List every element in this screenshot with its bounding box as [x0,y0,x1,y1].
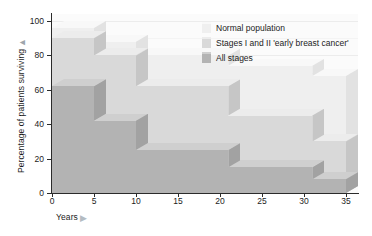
series-step-face [52,86,94,193]
series-step-face [136,150,228,193]
x-axis-tick-mark [346,193,347,197]
y-axis-arrow-icon: ▲ [17,38,27,47]
x-axis-tick-mark [262,193,263,197]
legend-swatch-icon [202,37,211,48]
x-axis-tick-label: 35 [341,196,350,206]
x-axis-label: Years▶ [56,212,87,223]
x-axis-tick-mark [52,193,53,197]
x-axis-tick-mark [304,193,305,197]
y-axis-label: Percentage of patients surviving▲ [16,11,27,201]
y-axis-tick-label: 60 [18,85,44,95]
x-axis-tick-label: 15 [173,196,182,206]
legend-item-label: Normal population [216,23,285,33]
legend-item: All stages [202,50,349,65]
x-axis-tick-label: 0 [50,196,55,206]
legend-item-label: Stages I and II 'early breast cancer' [216,38,349,48]
series-riser-side [94,79,106,120]
y-axis-tick-mark [47,90,51,91]
x-axis-tick-label: 30 [299,196,308,206]
y-axis-tick-label: 40 [18,119,44,129]
x-axis-tick-mark [220,193,221,197]
survival-chart: Percentage of patients surviving▲ Years▶… [0,0,372,236]
legend-item-label: All stages [216,53,253,63]
legend-swatch-icon [202,52,211,63]
x-axis-label-text: Years [56,212,78,222]
y-axis-line [51,13,52,194]
y-axis-tick-label: 0 [18,188,44,198]
legend-swatch-icon [202,22,211,33]
series-step-face [312,179,346,193]
x-axis-tick-mark [136,193,137,197]
x-axis-arrow-icon: ▶ [80,213,87,223]
y-axis-tick-label: 100 [18,16,44,26]
legend-item: Normal population [202,20,349,35]
y-axis-tick-mark [47,21,51,22]
series-step-face [94,121,136,193]
x-axis-tick-label: 25 [257,196,266,206]
x-axis-tick-mark [94,193,95,197]
y-axis-tick-label: 20 [18,154,44,164]
series-step-top [136,143,241,150]
x-axis-tick-label: 20 [215,196,224,206]
y-axis-tick-mark [47,55,51,56]
y-axis-tick-mark [47,159,51,160]
y-axis-tick-label: 80 [18,50,44,60]
y-axis-tick-mark [47,124,51,125]
y-axis-tick-mark [47,193,51,194]
legend: Normal populationStages I and II 'early … [202,20,349,65]
x-axis-tick-label: 10 [131,196,140,206]
x-axis-line [51,193,359,194]
series-step-face [228,167,312,193]
series-step-top [228,160,324,167]
x-axis-tick-mark [178,193,179,197]
legend-item: Stages I and II 'early breast cancer' [202,35,349,50]
x-axis-tick-label: 5 [92,196,97,206]
